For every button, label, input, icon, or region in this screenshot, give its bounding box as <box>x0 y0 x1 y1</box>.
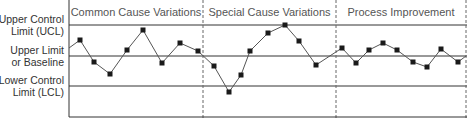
data-point <box>354 61 359 66</box>
section-label: Process Improvement <box>336 6 466 18</box>
data-point <box>381 41 386 46</box>
section-label: Special Cause Variations <box>203 6 336 18</box>
data-point <box>227 90 232 95</box>
data-point <box>125 48 130 53</box>
data-point <box>367 48 372 53</box>
data-point <box>141 28 146 33</box>
data-point <box>160 61 165 66</box>
control-limit-label: Lower ControlLimit (LCL) <box>0 74 64 98</box>
label-line-2: or Baseline <box>10 56 64 68</box>
data-point <box>314 63 319 68</box>
data-point <box>283 23 288 28</box>
section-label: Common Cause Variations <box>69 6 203 18</box>
data-point <box>212 64 217 69</box>
data-point <box>411 60 416 65</box>
data-point <box>248 49 253 54</box>
data-point <box>108 72 113 77</box>
data-point <box>425 65 430 70</box>
label-line-1: Lower Control <box>0 74 64 86</box>
data-point <box>178 41 183 46</box>
data-point <box>340 46 345 51</box>
control-chart <box>0 0 467 125</box>
control-limit-label: Upper ControlLimit (UCL) <box>0 13 64 37</box>
data-point <box>196 49 201 54</box>
data-point <box>92 60 97 65</box>
label-line-2: Limit (LCL) <box>0 86 64 98</box>
label-line-1: Upper Control <box>0 13 64 25</box>
data-point <box>297 39 302 44</box>
data-point <box>266 31 271 36</box>
data-point <box>78 38 83 43</box>
data-point <box>395 48 400 53</box>
label-line-1: Upper Limit <box>10 44 64 56</box>
data-point <box>439 47 444 52</box>
data-point <box>239 73 244 78</box>
data-point <box>456 60 461 65</box>
control-limit-label: Upper Limitor Baseline <box>10 44 64 68</box>
label-line-2: Limit (UCL) <box>0 25 64 37</box>
